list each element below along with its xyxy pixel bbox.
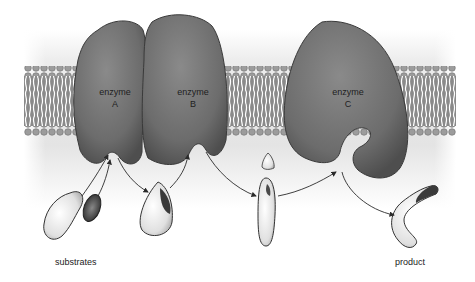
enzyme-c-label: enzyme C <box>318 86 378 110</box>
product-label: product <box>395 257 425 268</box>
diagram-canvas: enzyme A enzyme B enzyme C substrates pr… <box>0 0 475 282</box>
enzyme-b-label: enzyme B <box>163 86 223 110</box>
intermediate-2 <box>258 178 275 246</box>
enzyme-a-label: enzyme A <box>85 86 145 110</box>
substrates-label: substrates <box>55 257 97 268</box>
